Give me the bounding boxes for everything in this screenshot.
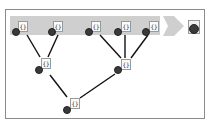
node-n2-dot (48, 28, 56, 36)
node-n5-icon: {} (149, 21, 159, 32)
arrow-icon (163, 16, 184, 36)
node-n4-icon: {} (121, 21, 131, 32)
node-n3-dot (85, 28, 93, 36)
node-b1-dot (63, 106, 71, 114)
node-m2-dot (114, 66, 122, 74)
node-b1-icon: {} (70, 98, 80, 109)
node-n5-dot (142, 28, 150, 36)
node-n4-dot (114, 28, 122, 36)
node-n1-dot (12, 28, 20, 36)
node-m2-icon: {} (121, 59, 131, 70)
output-node-dot (189, 24, 199, 34)
node-m1-dot (35, 66, 43, 74)
diagram-graphics (0, 0, 215, 128)
